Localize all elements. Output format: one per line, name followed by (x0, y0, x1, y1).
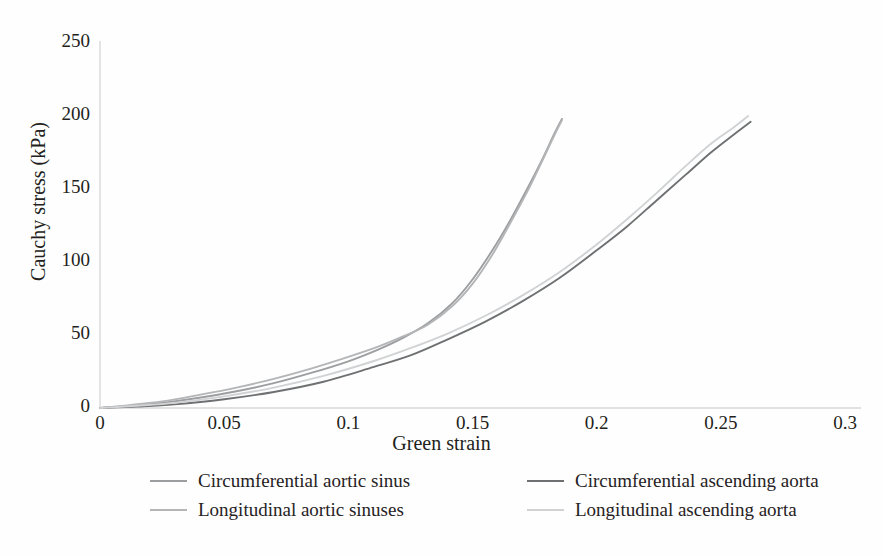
x-tick-label: 0.15 (438, 412, 508, 434)
legend-label: Longitudinal aortic sinuses (198, 499, 404, 521)
series-line-2 (100, 120, 562, 408)
legend-label: Circumferential ascending aorta (575, 470, 819, 492)
legend-item[interactable]: Longitudinal aortic sinuses (150, 499, 513, 521)
x-tick-label: 0.2 (562, 412, 632, 434)
series-line-4 (100, 116, 748, 408)
legend-item[interactable]: Circumferential aortic sinus (150, 470, 513, 492)
chart-svg (0, 0, 883, 470)
chart-legend: Circumferential aortic sinusCircumferent… (150, 470, 883, 521)
legend-item[interactable]: Circumferential ascending aorta (527, 470, 883, 492)
plot-area: 050100150200250 00.050.10.150.20.250.3 C… (0, 0, 883, 470)
legend-label: Circumferential aortic sinus (198, 470, 410, 492)
x-tick-label: 0.1 (313, 412, 383, 434)
series-line-1 (100, 119, 562, 408)
x-tick-label: 0.3 (810, 412, 880, 434)
series-curves (100, 116, 751, 408)
legend-swatch-icon (150, 509, 187, 511)
y-tick-label: 250 (26, 30, 90, 52)
series-line-3 (100, 122, 751, 408)
legend-swatch-icon (527, 509, 564, 511)
x-tick-label: 0 (65, 412, 135, 434)
legend-swatch-icon (150, 480, 187, 482)
legend-label: Longitudinal ascending aorta (575, 499, 797, 521)
x-tick-label: 0.25 (686, 412, 756, 434)
x-axis-title: Green strain (0, 432, 883, 455)
x-tick-label: 0.05 (189, 412, 259, 434)
chart-page: 050100150200250 00.050.10.150.20.250.3 C… (0, 0, 883, 556)
axis-lines (100, 41, 861, 408)
legend-swatch-icon (527, 480, 564, 482)
y-axis-title: Cauchy stress (kPa) (27, 72, 50, 332)
legend-item[interactable]: Longitudinal ascending aorta (527, 499, 883, 521)
